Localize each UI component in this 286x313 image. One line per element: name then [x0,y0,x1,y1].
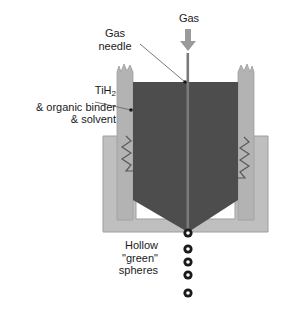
gas-needle-label: Gas needle [86,27,144,52]
spheres-label-line3: spheres [96,264,158,277]
gas-arrow-icon [180,29,196,51]
material-label-line2: & organic binder [6,101,116,114]
diagram-canvas: Gas Gas needle TiH2 & organic binder & s… [0,0,286,313]
material-label-line3: & solvent [6,113,116,126]
spheres-label: Hollow "green" spheres [96,239,158,277]
gas-needle-label-line2: needle [86,40,144,53]
spheres-label-line2: "green" [96,252,158,265]
hollow-sphere-icon [183,270,192,279]
material-label-line1: TiH2 [6,84,116,101]
gas-label: Gas [160,12,218,25]
hollow-sphere-icon [183,257,192,266]
spheres-label-line1: Hollow [96,239,158,252]
hollow-sphere-icon [183,244,192,253]
crucible-wall-right [238,64,254,220]
hollow-sphere-icon [183,288,192,297]
material-formula-subscript: 2 [112,89,116,98]
hollow-sphere-icon [183,228,192,237]
leader-line-gas-needle [140,44,187,84]
gas-label-text: Gas [179,12,199,24]
material-formula-base: TiH [95,84,112,96]
gas-needle-label-line1: Gas [86,27,144,40]
crucible-wall-left [117,64,133,220]
slurry-body [133,82,238,231]
needle-icon [187,53,190,231]
material-label: TiH2 & organic binder & solvent [6,84,116,126]
sphere-stack [183,228,192,297]
